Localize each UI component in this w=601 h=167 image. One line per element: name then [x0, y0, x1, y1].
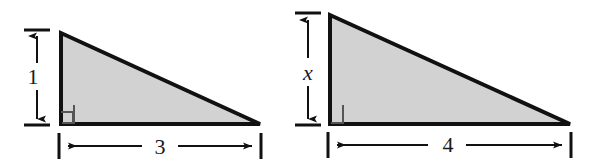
left-height-label: 1 [22, 66, 44, 88]
right-triangle-group [330, 15, 570, 124]
right-base-label: 4 [435, 134, 461, 156]
small-right-triangle [61, 33, 260, 124]
left-triangle-group [61, 33, 260, 124]
left-base-label: 3 [147, 136, 173, 158]
large-right-triangle [330, 15, 570, 124]
right-height-label: x [296, 62, 320, 84]
figure-container: 1 3 x 4 [0, 0, 601, 167]
